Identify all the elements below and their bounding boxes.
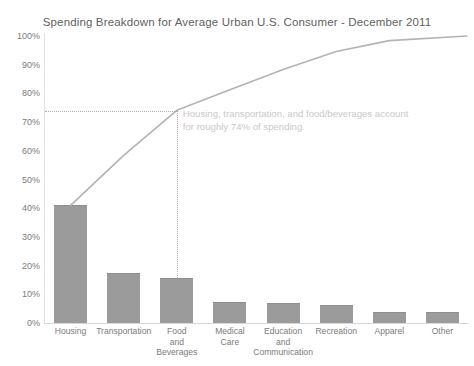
annotation-line-1: Housing, transportation, and food/bevera… [183,107,421,121]
reference-line-horizontal-74 [45,111,177,112]
x-tick-label-line: Other [403,326,474,337]
chart-title: Spending Breakdown for Average Urban U.S… [0,16,474,28]
x-tick-label-line: Beverages [137,347,216,358]
pareto-chart: Spending Breakdown for Average Urban U.S… [0,0,474,366]
x-tick-label-line: and [244,337,323,348]
y-tick-label: 60% [2,146,40,156]
cumulative-callout-annotation: Housing, transportation, and food/bevera… [183,107,421,134]
y-tick-label: 30% [2,232,40,242]
plot-area [44,36,469,323]
y-tick-label: 90% [2,60,40,70]
y-tick-label: 100% [2,31,40,41]
x-tick-label-line: Communication [244,347,323,358]
x-tick-label: Other [403,326,474,337]
y-tick-label: 80% [2,88,40,98]
y-tick-label: 70% [2,117,40,127]
cumulative-line-series [44,36,469,323]
reference-line-vertical-food-beverages [177,111,178,278]
y-tick-label: 50% [2,175,40,185]
y-tick-label: 20% [2,261,40,271]
x-axis-line [44,323,469,324]
annotation-line-2: for roughly 74% of spending. [183,120,421,134]
x-axis-category-labels: HousingTransportationFoodandBeveragesMed… [44,326,469,366]
y-axis-tick-labels: 100%90%80%70%60%50%40%30%20%10%0% [0,36,40,323]
y-tick-label: 40% [2,203,40,213]
y-tick-label: 10% [2,289,40,299]
